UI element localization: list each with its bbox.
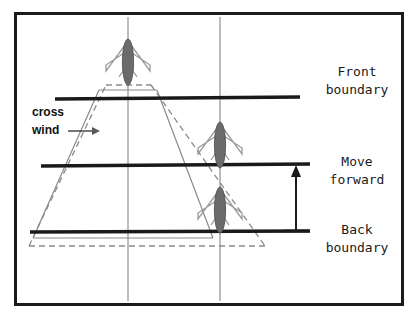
aircraft-fuselage bbox=[122, 39, 133, 85]
back-boundary-label-line2: boundary bbox=[326, 240, 389, 255]
move-forward-line bbox=[41, 164, 310, 166]
back-boundary-line bbox=[30, 231, 310, 232]
front-boundary-label-line2: boundary bbox=[326, 82, 389, 97]
move-forward-label-line2: forward bbox=[330, 172, 385, 187]
aircraft-fuselage bbox=[214, 187, 225, 233]
diagram-page: cross wind Front boundary Move forward B… bbox=[0, 0, 417, 324]
aircraft-fuselage bbox=[214, 122, 225, 168]
cross-wind-label-line2: wind bbox=[31, 123, 59, 137]
back-boundary-label-line1: Back bbox=[341, 222, 372, 237]
front-boundary-label-line1: Front bbox=[337, 64, 376, 79]
cross-wind-diagram: cross wind Front boundary Move forward B… bbox=[0, 0, 417, 324]
front-boundary-line bbox=[55, 97, 300, 99]
move-forward-label-line1: Move bbox=[341, 154, 372, 169]
cross-wind-label-line1: cross bbox=[32, 105, 64, 119]
